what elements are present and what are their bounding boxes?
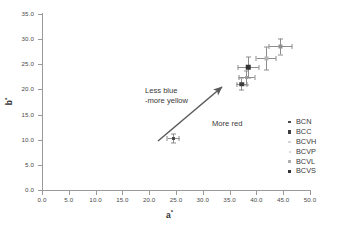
y-tick-label: 25.0 (4, 60, 34, 67)
y-error-cap (246, 56, 251, 57)
x-tick-label: 30.0 (188, 196, 218, 203)
legend-label: BCVH (296, 137, 316, 147)
marker-bcvp (264, 57, 268, 61)
legend-marker-icon (285, 127, 294, 136)
x-tick-mark (256, 191, 257, 195)
annotation-more-red: More red (212, 119, 242, 129)
y-tick-label: 30.0 (4, 35, 34, 42)
legend-item-bcvl[interactable]: BCVL (285, 157, 316, 167)
legend-item-bcvh[interactable]: BCVH (285, 137, 316, 147)
x-tick-mark (176, 191, 177, 195)
x-tick-label: 35.0 (215, 196, 245, 203)
legend-label: BCC (296, 127, 311, 137)
y-error-cap (264, 47, 269, 48)
x-tick-mark (69, 191, 70, 195)
legend-item-bcc[interactable]: BCC (285, 127, 316, 137)
annotation-less-blue: Less blue -more yellow (145, 86, 188, 105)
legend-label: BCVS (296, 166, 316, 176)
y-axis-title-sup: * (4, 98, 10, 100)
annotation-less-blue-line1: Less blue (145, 86, 188, 96)
x-error-cap (269, 44, 270, 49)
x-tick-label: 40.0 (241, 196, 271, 203)
x-error-cap (256, 56, 257, 61)
legend: BCNBCCBCVHBCVPBCVLBCVS (285, 117, 316, 176)
x-tick-mark (230, 191, 231, 195)
data-point-bcvp (266, 58, 267, 59)
x-tick-mark (42, 191, 43, 195)
x-tick-label: 10.0 (81, 196, 111, 203)
legend-label: BCVP (296, 147, 316, 157)
x-tick-label: 5.0 (54, 196, 84, 203)
legend-label: BCN (296, 117, 311, 127)
marker-bcvh (279, 45, 283, 49)
x-tick-label: 50.0 (295, 196, 325, 203)
legend-marker-icon (285, 137, 294, 146)
annotation-less-blue-line2: -more yellow (145, 96, 188, 106)
y-tick-label: 10.0 (4, 136, 34, 143)
legend-marker-icon (285, 157, 294, 166)
x-tick-mark (149, 191, 150, 195)
scatter-chart: 0.05.010.015.020.025.030.035.0 0.05.010.… (0, 0, 339, 229)
x-tick-label: 45.0 (268, 196, 298, 203)
x-error-cap (237, 65, 238, 70)
legend-marker-icon (285, 167, 294, 176)
y-axis-title-base: b (4, 100, 14, 105)
y-error-cap (278, 54, 283, 55)
x-tick-mark (122, 191, 123, 195)
x-error-cap (275, 56, 276, 61)
x-axis-title-sup: * (171, 209, 173, 215)
legend-item-bcvp[interactable]: BCVP (285, 147, 316, 157)
legend-item-bcvs[interactable]: BCVS (285, 166, 316, 176)
x-tick-mark (310, 191, 311, 195)
y-tick-label: 5.0 (4, 161, 34, 168)
x-tick-mark (203, 191, 204, 195)
y-error-cap (278, 38, 283, 39)
y-tick-label: 0.0 (4, 186, 34, 193)
x-tick-label: 15.0 (107, 196, 137, 203)
x-tick-mark (96, 191, 97, 195)
legend-marker-icon (285, 147, 294, 156)
x-axis-title: a* (0, 209, 339, 220)
y-error-cap (264, 70, 269, 71)
data-point-bcvh (280, 46, 281, 47)
x-error-cap (259, 65, 260, 70)
legend-item-bcn[interactable]: BCN (285, 117, 316, 127)
data-point-bcvs (248, 67, 249, 68)
legend-marker-icon (285, 117, 294, 126)
x-tick-label: 0.0 (27, 196, 57, 203)
y-tick-label: 35.0 (4, 10, 34, 17)
y-axis-title: b* (4, 81, 15, 121)
x-tick-label: 20.0 (134, 196, 164, 203)
legend-label: BCVL (296, 157, 315, 167)
x-tick-mark (283, 191, 284, 195)
marker-bcvs (246, 65, 252, 71)
x-tick-label: 25.0 (161, 196, 191, 203)
x-error-cap (291, 44, 292, 49)
